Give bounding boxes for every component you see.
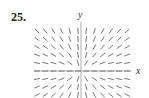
slope-segment <box>86 28 87 34</box>
slope-segment <box>85 84 87 90</box>
slope-segment <box>51 93 55 97</box>
slope-segment <box>100 53 105 57</box>
slope-segment <box>67 77 72 81</box>
slope-segment <box>51 53 56 56</box>
slope-segment <box>59 53 64 57</box>
slope-segment <box>125 29 129 33</box>
slope-segment <box>43 29 47 34</box>
slope-segment <box>59 78 65 80</box>
slope-segment <box>69 44 71 49</box>
slope-segment <box>43 93 48 96</box>
slope-segment <box>101 45 105 50</box>
slope-segment <box>42 62 48 63</box>
slope-segment <box>51 62 57 64</box>
slope-segment <box>51 45 55 49</box>
slope-segment <box>85 52 87 58</box>
slope-segment <box>34 62 40 63</box>
slope-segment <box>59 85 64 89</box>
slope-segment <box>42 54 47 56</box>
slope-segment <box>51 78 57 80</box>
slope-segment <box>34 86 40 88</box>
slope-segment <box>60 28 63 33</box>
slope-segment <box>60 45 64 50</box>
slope-segment <box>77 76 79 82</box>
slope-segment <box>77 52 78 58</box>
slope-segment <box>116 93 121 96</box>
slope-segment <box>78 36 79 42</box>
slope-segment <box>116 62 122 63</box>
slope-segment <box>100 78 106 80</box>
slope-segment <box>67 61 72 65</box>
slope-segment <box>34 46 39 49</box>
slope-segment <box>92 77 97 80</box>
slope-segment <box>108 62 114 64</box>
slope-segment <box>93 85 97 90</box>
slope-segment <box>100 62 106 64</box>
slope-segment <box>51 37 55 42</box>
slope-segment <box>93 28 95 34</box>
slope-segment <box>93 53 97 58</box>
slope-segment <box>116 86 122 88</box>
slope-segment <box>93 92 96 97</box>
direction-field-plot: x y <box>0 0 149 98</box>
slope-segment <box>101 28 104 33</box>
slope-segment <box>35 37 40 41</box>
slope-segment <box>101 36 104 41</box>
slope-segment <box>109 29 113 34</box>
slope-segment <box>59 62 65 64</box>
slope-segment <box>77 60 79 66</box>
slope-segment <box>108 86 113 89</box>
slope-segment <box>117 29 121 33</box>
slope-segment <box>108 54 113 57</box>
slope-segment <box>116 45 121 48</box>
slope-segment <box>34 94 39 97</box>
slope-segment <box>92 61 97 64</box>
slope-segment <box>86 92 87 98</box>
slope-segment <box>69 28 71 34</box>
slope-segment <box>68 53 71 58</box>
slope-segment <box>100 85 105 89</box>
slope-segment <box>108 45 113 49</box>
slope-segment <box>34 78 40 79</box>
slope-segment <box>85 76 88 81</box>
slope-segment <box>78 44 79 50</box>
slope-segment <box>85 60 88 65</box>
slope-segment <box>69 36 71 42</box>
slope-segment <box>93 44 96 49</box>
slope-segment <box>124 78 130 79</box>
slope-segment <box>51 85 56 88</box>
slope-segment <box>42 86 47 88</box>
slope-segment <box>43 45 48 48</box>
slope-segment <box>116 54 122 56</box>
slope-segment <box>52 29 55 34</box>
slope-segment <box>86 36 87 42</box>
slope-segment <box>108 93 113 97</box>
slope-segment <box>78 92 79 98</box>
slope-segment <box>69 92 71 97</box>
slope-segment <box>125 37 130 40</box>
slope-segment <box>117 37 122 41</box>
slope-segment <box>43 37 47 41</box>
slope-segment <box>124 86 130 88</box>
slope-segment <box>42 78 48 79</box>
slope-segment <box>116 78 122 79</box>
slope-segment <box>125 46 130 49</box>
slope-segment <box>60 93 64 98</box>
slope-segment <box>86 44 87 50</box>
slope-segment <box>125 94 130 97</box>
y-axis-label: y <box>77 9 83 20</box>
slope-segment <box>60 36 63 41</box>
slope-segment <box>109 37 113 41</box>
slope-segment <box>124 54 130 56</box>
slope-segment <box>93 36 95 42</box>
slope-segment <box>108 78 114 80</box>
slope-segment <box>35 29 39 33</box>
slope-segment <box>101 93 105 98</box>
x-axis-label: x <box>135 65 141 76</box>
slope-segment <box>34 54 40 56</box>
slope-segment <box>77 84 78 90</box>
slope-segment <box>68 85 71 90</box>
slope-segment <box>124 62 130 63</box>
slope-segments <box>34 28 130 98</box>
